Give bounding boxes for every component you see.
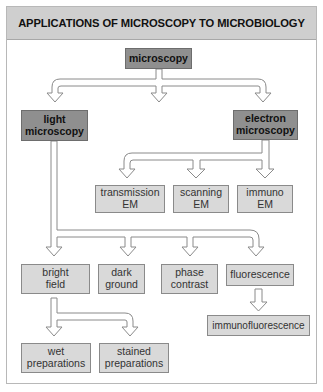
node-fluorescence: fluorescence bbox=[226, 264, 294, 286]
node-label: immunofluorescence bbox=[212, 320, 304, 331]
node-label-line2: contrast bbox=[171, 279, 208, 291]
node-dark-ground: dark ground bbox=[98, 264, 145, 294]
node-label-line2: microscopy bbox=[236, 125, 295, 137]
node-scanning-em: scanning EM bbox=[173, 185, 229, 213]
node-transmission-em: transmission EM bbox=[95, 185, 165, 213]
node-phase-contrast: phase contrast bbox=[161, 264, 218, 294]
node-label-line2: ground bbox=[105, 279, 138, 291]
node-wet-preparations: wet preparations bbox=[21, 343, 91, 373]
node-label: microscopy bbox=[129, 53, 188, 65]
node-label: fluorescence bbox=[230, 269, 290, 281]
node-label-line1: light bbox=[43, 114, 65, 126]
node-microscopy: microscopy bbox=[125, 48, 192, 69]
node-immunofluorescence: immunofluorescence bbox=[207, 315, 310, 336]
node-label-line2: EM bbox=[257, 199, 273, 211]
node-label-line2: EM bbox=[122, 199, 138, 211]
arrow-fluorescence-immuno bbox=[250, 289, 267, 311]
node-label-line2: field bbox=[46, 279, 65, 291]
arrow-electron-branches bbox=[119, 140, 274, 178]
node-label-line2: preparations bbox=[105, 358, 163, 370]
node-electron-microscopy: electron microscopy bbox=[233, 110, 298, 140]
node-stained-preparations: stained preparations bbox=[99, 343, 169, 373]
arrow-root-branches bbox=[47, 69, 271, 102]
node-light-microscopy: light microscopy bbox=[21, 110, 88, 141]
node-label-line2: preparations bbox=[27, 358, 85, 370]
node-bright-field: bright field bbox=[21, 264, 90, 294]
node-label-line2: EM bbox=[193, 199, 209, 211]
node-label-line2: microscopy bbox=[25, 126, 84, 138]
node-immuno-em: immuno EM bbox=[237, 185, 293, 213]
arrow-brightfield-branches bbox=[46, 298, 138, 336]
